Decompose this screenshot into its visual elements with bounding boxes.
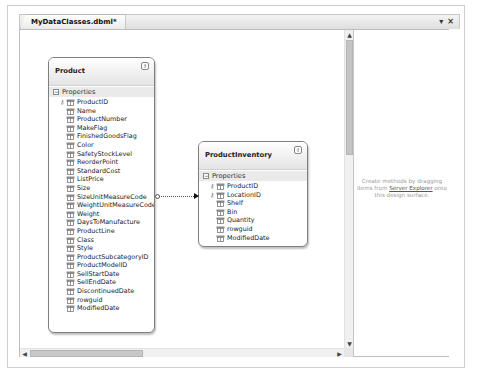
property-icon xyxy=(66,245,75,252)
property-name: DiscontinuedDate xyxy=(77,287,134,296)
property-name: Shelf xyxy=(227,199,243,208)
properties-section-header[interactable]: − Properties xyxy=(199,171,307,181)
property-row[interactable]: StandardCost xyxy=(49,167,154,176)
association-arrow-icon xyxy=(194,193,199,199)
property-name: rowguid xyxy=(227,225,253,234)
methods-hint: Create methods by dragging items from Se… xyxy=(356,178,448,199)
property-name: ProductSubcategoryID xyxy=(77,253,148,262)
close-icon[interactable]: × xyxy=(447,17,454,26)
property-icon xyxy=(66,297,75,304)
property-row[interactable]: rowguid xyxy=(49,296,154,305)
property-row[interactable]: WeightUnitMeasureCode xyxy=(49,201,154,210)
property-icon xyxy=(66,237,75,244)
property-row[interactable]: DiscontinuedDate xyxy=(49,287,154,296)
property-row[interactable]: Size xyxy=(49,184,154,193)
property-row[interactable]: Weight xyxy=(49,210,154,219)
property-icon xyxy=(66,125,75,132)
property-name: SellStartDate xyxy=(77,270,119,279)
property-row[interactable]: ModifiedDate xyxy=(49,304,154,313)
entity-title: Product xyxy=(55,67,85,75)
property-row[interactable]: FinishedGoodsFlag xyxy=(49,132,154,141)
horizontal-scroll-thumb[interactable] xyxy=(30,350,143,357)
property-row[interactable]: ProductSubcategoryID xyxy=(49,253,154,262)
property-row[interactable]: ⚷ProductID xyxy=(49,98,154,107)
property-row[interactable]: ProductLine xyxy=(49,227,154,236)
horizontal-scrollbar[interactable]: ◀ ▶ xyxy=(20,348,344,357)
scroll-right-icon[interactable]: ▶ xyxy=(335,349,344,358)
property-name: rowguid xyxy=(77,296,103,305)
property-row[interactable]: SizeUnitMeasureCode xyxy=(49,193,154,202)
primary-key-icon: ⚷ xyxy=(210,192,214,198)
property-icon xyxy=(66,194,75,201)
properties-section-header[interactable]: − Properties xyxy=(49,87,154,97)
property-row[interactable]: Shelf xyxy=(199,199,307,208)
design-surface[interactable]: Product ⇑ − Properties ⚷ProductIDNamePro… xyxy=(20,30,344,348)
property-row[interactable]: Style xyxy=(49,244,154,253)
document-area: Product ⇑ − Properties ⚷ProductIDNamePro… xyxy=(19,29,449,357)
server-explorer-link[interactable]: Server Explorer xyxy=(389,185,432,191)
property-name: WeightUnitMeasureCode xyxy=(77,201,155,210)
property-row[interactable]: Name xyxy=(49,107,154,116)
property-icon xyxy=(66,168,75,175)
property-icon xyxy=(216,217,225,224)
property-row[interactable]: SellStartDate xyxy=(49,270,154,279)
property-name: Quantity xyxy=(227,216,255,225)
methods-pane[interactable]: Create methods by dragging items from Se… xyxy=(353,30,449,356)
vertical-scrollbar[interactable]: ▲ ▼ xyxy=(344,30,353,348)
property-name: Color xyxy=(77,141,94,150)
minus-icon[interactable]: − xyxy=(203,173,209,179)
property-name: ReorderPoint xyxy=(77,158,118,167)
vertical-scroll-thumb[interactable] xyxy=(346,40,353,155)
property-row[interactable]: ListPrice xyxy=(49,175,154,184)
tab-mydataclasses[interactable]: MyDataClasses.dbml* xyxy=(20,14,126,29)
scrollbar-corner xyxy=(344,348,353,357)
property-name: SizeUnitMeasureCode xyxy=(77,193,147,202)
scroll-left-icon[interactable]: ◀ xyxy=(20,349,29,358)
collapse-icon[interactable]: ⇑ xyxy=(141,62,149,70)
property-row[interactable]: ModifiedDate xyxy=(199,234,307,243)
collapse-icon[interactable]: ⇑ xyxy=(294,146,302,154)
property-icon xyxy=(216,209,225,216)
property-icon xyxy=(66,142,75,149)
property-name: Class xyxy=(77,236,94,245)
association-line[interactable] xyxy=(158,196,198,197)
tab-label: MyDataClasses.dbml* xyxy=(31,18,117,26)
property-icon xyxy=(66,271,75,278)
property-row[interactable]: Quantity xyxy=(199,216,307,225)
entity-product[interactable]: Product ⇑ − Properties ⚷ProductIDNamePro… xyxy=(48,57,155,333)
property-row[interactable]: SafetyStockLevel xyxy=(49,150,154,159)
property-icon xyxy=(216,192,225,199)
property-row[interactable]: MakeFlag xyxy=(49,124,154,133)
window-position-dropdown-icon[interactable]: ▾ xyxy=(439,17,443,26)
property-icon xyxy=(66,176,75,183)
entity-header[interactable]: Product ⇑ xyxy=(49,58,154,86)
property-row[interactable]: Bin xyxy=(199,208,307,217)
property-row[interactable]: ⚷ProductID xyxy=(199,182,307,191)
property-icon xyxy=(66,254,75,261)
tab-controls: ▾× xyxy=(435,16,454,28)
property-icon xyxy=(216,235,225,242)
entity-header[interactable]: ProductInventory ⇑ xyxy=(199,142,307,170)
property-row[interactable]: ReorderPoint xyxy=(49,158,154,167)
entity-title: ProductInventory xyxy=(205,151,272,159)
property-row[interactable]: rowguid xyxy=(199,225,307,234)
property-name: ProductLine xyxy=(77,227,115,236)
property-row[interactable]: Class xyxy=(49,236,154,245)
property-icon xyxy=(66,305,75,312)
property-name: MakeFlag xyxy=(77,124,107,133)
property-row[interactable]: ProductNumber xyxy=(49,115,154,124)
property-row[interactable]: ProductModelID xyxy=(49,261,154,270)
property-name: Bin xyxy=(227,208,237,217)
property-icon xyxy=(66,211,75,218)
property-row[interactable]: ⚷LocationID xyxy=(199,191,307,200)
minus-icon[interactable]: − xyxy=(53,89,59,95)
property-row[interactable]: Color xyxy=(49,141,154,150)
entity-productinventory[interactable]: ProductInventory ⇑ − Properties ⚷Product… xyxy=(198,141,308,247)
property-name: ProductModelID xyxy=(77,261,127,270)
property-row[interactable]: DaysToManufacture xyxy=(49,218,154,227)
document-tabstrip: MyDataClasses.dbml* ▾× xyxy=(19,14,460,29)
property-row[interactable]: SellEndDate xyxy=(49,278,154,287)
property-name: ProductNumber xyxy=(77,115,127,124)
property-name: StandardCost xyxy=(77,167,120,176)
property-icon xyxy=(66,151,75,158)
